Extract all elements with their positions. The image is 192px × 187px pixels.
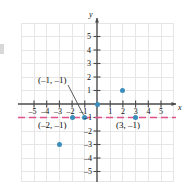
- graph-figure: x y –5 –4 –3 –2 –1 1 2 3 4 5 5 4 3 2 1 –…: [0, 0, 192, 187]
- point-annotation-neg1-neg1: (–1, –1): [38, 76, 67, 85]
- y-tick-label: –5: [84, 168, 92, 176]
- x-tick-label: –3: [54, 108, 62, 116]
- x-tick-label: 1: [108, 108, 112, 116]
- y-tick-label: 1: [87, 87, 91, 95]
- label-layer: x y –5 –4 –3 –2 –1 1 2 3 4 5 5 4 3 2 1 –…: [0, 0, 192, 187]
- y-tick-label: 4: [87, 47, 91, 55]
- y-tick-label: 3: [87, 60, 91, 68]
- x-axis-label: x: [178, 104, 182, 112]
- y-tick-label: –3: [84, 141, 92, 149]
- x-tick-label: 2: [121, 108, 125, 116]
- x-tick-label: –4: [41, 108, 49, 116]
- y-tick-label: 5: [87, 33, 91, 41]
- y-tick-label: –4: [84, 155, 92, 163]
- point-annotation-neg2-neg1: (–2, –1): [38, 121, 67, 130]
- x-tick-label: 5: [159, 108, 163, 116]
- point-annotation-3-neg1: (3, –1): [116, 121, 140, 130]
- y-tick-label: 2: [87, 74, 91, 82]
- x-tick-label: 4: [146, 108, 150, 116]
- y-tick-label: –1: [84, 114, 92, 122]
- x-tick-label: –5: [29, 108, 37, 116]
- x-tick-label: 3: [134, 108, 138, 116]
- x-tick-label: –2: [67, 108, 75, 116]
- y-axis-label: y: [89, 11, 93, 19]
- y-tick-label: –2: [84, 128, 92, 136]
